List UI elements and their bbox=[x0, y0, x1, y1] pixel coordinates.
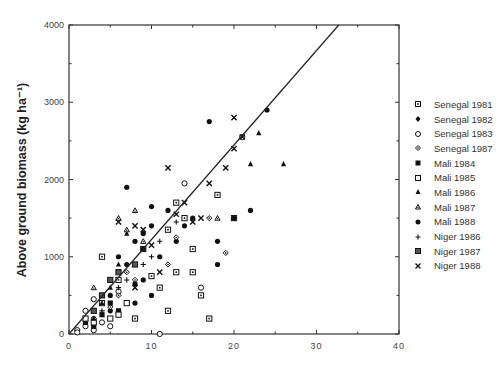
legend-item: Niger 1988 bbox=[412, 259, 493, 274]
open-circle-marker-icon bbox=[412, 129, 424, 139]
legend-item: Mali 1987 bbox=[412, 200, 493, 215]
legend-item: Mali 1988 bbox=[412, 215, 493, 230]
y-tick-label: 3000 bbox=[44, 97, 64, 107]
legend-label: Senegal 1982 bbox=[434, 114, 493, 125]
legend-item: Niger 1987 bbox=[412, 244, 493, 259]
legend-label: Senegal 1981 bbox=[434, 99, 493, 110]
x-tick-label: 30 bbox=[310, 341, 322, 351]
y-tick-label: 2000 bbox=[44, 175, 64, 185]
data-points bbox=[75, 107, 286, 336]
square-dot-marker-icon bbox=[412, 99, 424, 109]
legend-label: Niger 1988 bbox=[434, 260, 480, 271]
filled-circle-marker-icon bbox=[412, 217, 424, 227]
open-square-marker-icon bbox=[412, 173, 424, 183]
filled-square-marker-icon bbox=[412, 158, 424, 168]
open-diamond-marker-icon bbox=[412, 143, 424, 153]
y-tick-label: 1000 bbox=[44, 252, 64, 262]
legend-item: Mali 1986 bbox=[412, 185, 493, 200]
legend-label: Niger 1987 bbox=[434, 246, 480, 257]
legend-label: Niger 1986 bbox=[434, 231, 480, 242]
open-triangle-marker-icon bbox=[412, 202, 424, 212]
legend-item: Mali 1984 bbox=[412, 156, 493, 171]
filled-triangle-marker-icon bbox=[412, 187, 424, 197]
legend-item: Senegal 1983 bbox=[412, 126, 493, 141]
x-tick-label: 0 bbox=[66, 341, 72, 351]
legend-item: Senegal 1981 bbox=[412, 97, 493, 112]
legend-item: Mali 1985 bbox=[412, 170, 493, 185]
plus-marker-icon bbox=[412, 232, 424, 242]
legend-label: Mali 1987 bbox=[434, 202, 475, 213]
x-tick-label: 20 bbox=[228, 341, 240, 351]
x-tick-label: 40 bbox=[393, 341, 405, 351]
filled-diamond-marker-icon bbox=[412, 114, 424, 124]
y-tick-label: 4000 bbox=[44, 20, 64, 30]
series-niger-1987 bbox=[91, 262, 137, 314]
legend-label: Mali 1985 bbox=[434, 172, 475, 183]
series-mali-1985 bbox=[83, 301, 129, 326]
legend-label: Senegal 1987 bbox=[434, 143, 493, 154]
y-tick-label: 0 bbox=[59, 329, 64, 339]
legend-item: Senegal 1987 bbox=[412, 141, 493, 156]
legend-item: Niger 1986 bbox=[412, 229, 493, 244]
legend-label: Senegal 1983 bbox=[434, 128, 493, 139]
cross-marker-icon bbox=[412, 261, 424, 271]
legend-label: Mali 1988 bbox=[434, 216, 475, 227]
legend: Senegal 1981Senegal 1982Senegal 1983Sene… bbox=[412, 97, 493, 273]
legend-label: Mali 1986 bbox=[434, 187, 475, 198]
y-axis-label: Above ground biomass (kg ha⁻¹) bbox=[14, 80, 29, 280]
x-tick-label: 10 bbox=[145, 341, 157, 351]
filled-square-dot-marker-icon bbox=[412, 246, 424, 256]
legend-item: Senegal 1982 bbox=[412, 112, 493, 127]
series-senegal-1983 bbox=[75, 134, 245, 336]
legend-label: Mali 1984 bbox=[434, 158, 475, 169]
series-mali-1988 bbox=[108, 208, 220, 298]
